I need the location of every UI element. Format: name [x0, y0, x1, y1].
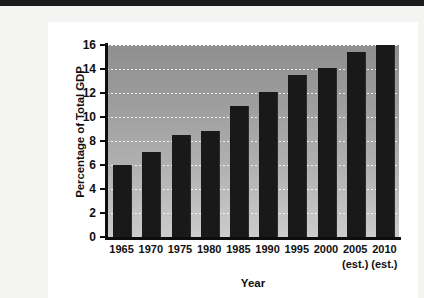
y-tick-label: 12	[64, 87, 96, 99]
y-tick-label: 4	[64, 183, 96, 195]
x-tick-sublabel: (est.)	[367, 258, 401, 271]
x-tick-label: 2010	[367, 243, 401, 256]
bar	[172, 135, 191, 237]
y-tick-label: 10	[64, 111, 96, 123]
bar	[288, 75, 307, 237]
bar-chart: Percentage of Total GDP 0246810121416 19…	[48, 22, 418, 298]
plot-area	[107, 45, 399, 237]
y-tick-mark	[100, 116, 107, 118]
x-axis-line	[105, 237, 401, 240]
top-dark-band	[0, 0, 424, 6]
x-axis-title: Year	[107, 277, 399, 289]
y-tick-mark	[100, 92, 107, 94]
y-tick-label: 8	[64, 135, 96, 147]
y-tick-label: 16	[64, 39, 96, 51]
y-tick-label: 6	[64, 159, 96, 171]
cropped-headline-text	[0, 0, 424, 5]
bar	[259, 92, 278, 237]
y-tick-mark	[100, 212, 107, 214]
y-tick-label: 0	[64, 231, 96, 243]
y-tick-label: 2	[64, 207, 96, 219]
bar	[347, 52, 366, 237]
y-tick-mark	[100, 164, 107, 166]
y-tick-label: 14	[64, 63, 96, 75]
bar	[113, 165, 132, 237]
bar	[201, 131, 220, 237]
y-tick-mark	[100, 188, 107, 190]
bar	[376, 45, 395, 237]
bar	[318, 68, 337, 237]
figure-card: Percentage of Total GDP 0246810121416 19…	[48, 22, 418, 298]
y-tick-mark	[100, 44, 107, 46]
y-tick-mark	[100, 140, 107, 142]
y-tick-mark	[100, 236, 107, 238]
bar	[142, 152, 161, 237]
gridline	[107, 45, 399, 46]
bar	[230, 106, 249, 237]
y-tick-mark	[100, 68, 107, 70]
